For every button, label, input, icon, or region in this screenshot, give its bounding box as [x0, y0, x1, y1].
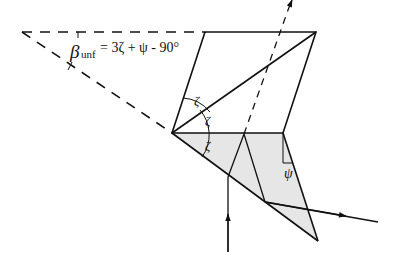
- formula-rhs: = 3ζ + ψ - 90°: [100, 40, 179, 55]
- parallelogram-diagonal: [172, 32, 316, 133]
- prism-diagram: β unf = 3ζ + ψ - 90° ζ ζ ζ ψ: [0, 0, 400, 267]
- zeta-label-3: ζ: [205, 138, 211, 153]
- ray-exit-arrow: [288, 0, 292, 10]
- psi-label: ψ: [284, 166, 293, 181]
- dashed-unfolded-ray: [244, 10, 288, 134]
- beta-subscript: unf: [81, 48, 96, 60]
- beta-symbol: β: [69, 41, 80, 62]
- zeta-label-1: ζ: [194, 93, 200, 108]
- zeta-label-2: ζ: [205, 113, 211, 128]
